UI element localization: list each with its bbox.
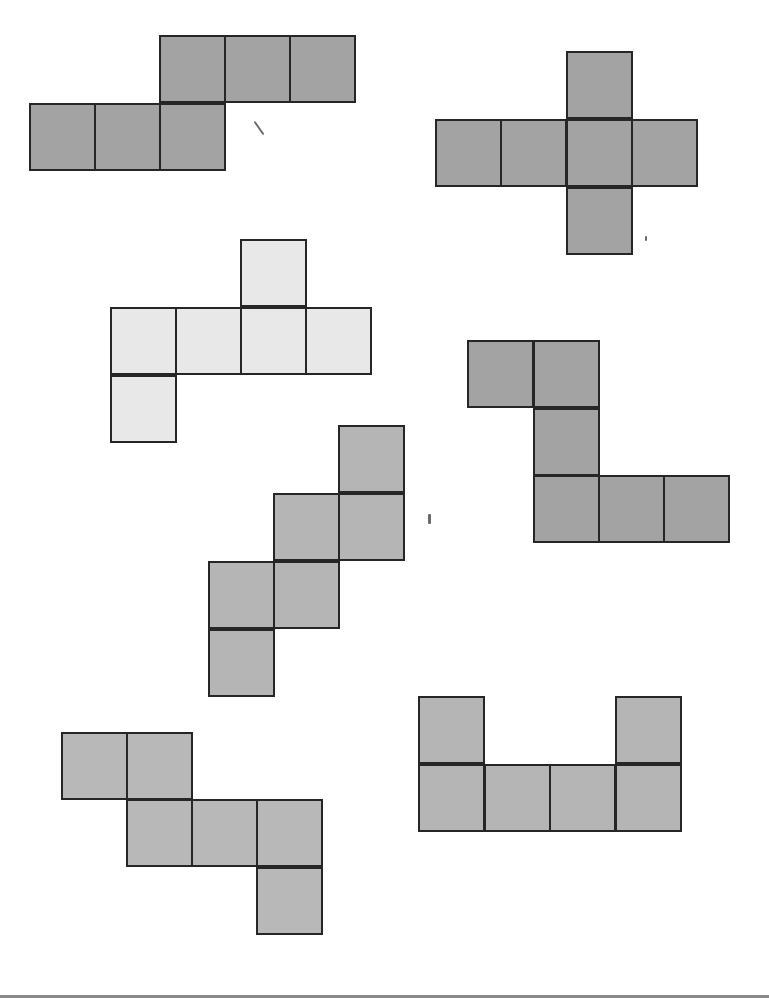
bottom-rule <box>0 995 769 998</box>
net-square <box>418 764 485 832</box>
stray-pencil-mark <box>645 236 647 241</box>
cube-net-7 <box>0 0 769 999</box>
net-square <box>615 764 682 832</box>
net-square <box>549 764 616 832</box>
net-square <box>484 764 551 832</box>
net-square <box>418 696 485 764</box>
net-square <box>615 696 682 764</box>
stray-pencil-mark <box>428 514 431 524</box>
